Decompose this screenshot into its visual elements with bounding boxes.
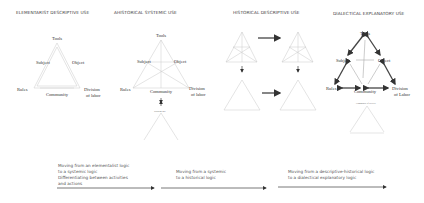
activity-theory-diagram: ELEMENTARIST DESCRIPTIVE USE AHISTORICAL… [0,0,424,203]
node-community: Community [150,89,173,94]
panel-dialectical-triangle: Tools Subject Object Rules Community Div… [326,31,410,133]
svg-text:Working unit: Working unit [154,110,166,112]
node-division: Division [189,86,206,91]
node-rules: Rules [17,87,28,92]
svg-text:Differentiating between activi: Differentiating between activities [58,175,128,180]
caption-1: Moving from an elementalist logic to a s… [58,163,130,186]
panel-ahistorical-triangle: Tools Subject Object Rules Community Div… [120,33,206,140]
svg-text:Moving from an elementalist lo: Moving from an elementalist logic [58,163,130,168]
panel-title-elementarist: ELEMENTARIST DESCRIPTIVE USE [16,10,89,15]
caption-3: Moving from a descriptive-historical log… [288,169,375,180]
node-community: Community [46,92,69,97]
svg-text:to a historical logic: to a historical logic [176,175,216,180]
panel-title-dialectical: DIALECTICAL EXPLANATORY USE [333,11,405,16]
node-subject: Subject [137,59,152,64]
svg-text:Moving from a descriptive-hist: Moving from a descriptive-historical log… [288,169,375,174]
node-tools: Tools [156,33,166,38]
svg-text:Community of activity: Community of activity [356,102,377,104]
node-object: Object [174,59,187,64]
svg-text:to a systemic logic: to a systemic logic [58,169,98,174]
node-division-line2: of Labor [394,92,410,97]
svg-text:and actions: and actions [58,181,82,186]
panel-title-ahistorical: AHISTORICAL SYSTEMIC USE [114,10,177,15]
panel-elementarist-triangle: Tools Subject Object Rules Community Div… [17,36,101,98]
panel-historical-diagrams [224,32,316,110]
node-subject: Subject [36,60,51,65]
node-division-line2: of labor [86,93,101,98]
svg-text:Moving from a systemic: Moving from a systemic [176,169,227,174]
node-division: Division [84,87,101,92]
node-division-line2: of labor [191,92,206,97]
svg-text:to a dialectical explanatory l: to a dialectical explanatory logic [288,175,357,180]
node-object: Object [72,60,85,65]
node-rules: Rules [326,86,337,91]
panel-title-historical: HISTORICAL DESCRIPTIVE USE [233,10,300,15]
node-subject: Subject [336,58,351,63]
caption-2: Moving from a systemic to a historical l… [176,169,227,180]
node-object: Object [378,58,391,63]
node-division: Division [392,86,409,91]
node-tools: Tools [52,36,62,41]
node-community: Community [354,89,377,94]
node-rules: Rules [120,87,131,92]
node-tools: Tools [360,31,370,36]
